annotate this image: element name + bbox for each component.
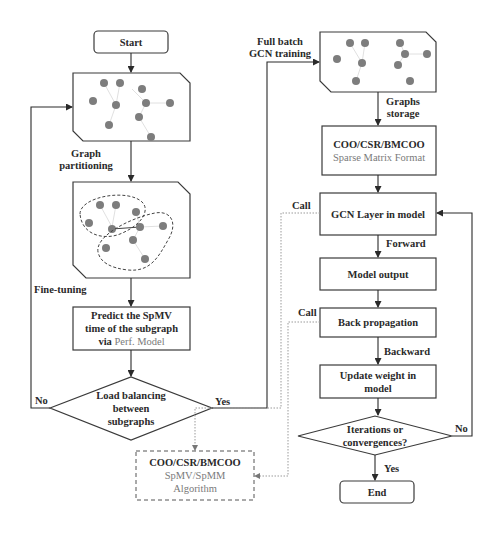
perf-model-highlight: Perf. Model: [114, 336, 164, 347]
graphs-storage-label: Graphs storage: [382, 96, 424, 120]
graph-partitioning-label: Graph partitioning: [58, 148, 114, 172]
graphs-storage-line2: storage: [382, 108, 424, 120]
convergence-line2: convergences?: [343, 436, 408, 449]
yes-label-right: Yes: [384, 463, 399, 475]
call-label-1: Call: [292, 200, 311, 212]
graph-partitioning-line1: Graph: [58, 148, 114, 160]
forward-label: Forward: [386, 238, 426, 250]
predict-text: Predict the SpMV time of the subgraph vi…: [73, 307, 190, 350]
end-label: End: [340, 481, 414, 503]
sparse-format-text: COO/CSR/BMCOO Sparse Matrix Format: [322, 126, 436, 175]
algorithm-title: COO/CSR/BMCOO: [149, 456, 241, 469]
convergence-line1: Iterations or: [347, 423, 403, 436]
convergence-text: Iterations or convergences?: [325, 422, 425, 450]
predict-line1: Predict the SpMV: [91, 309, 172, 322]
model-output-text: Model output: [320, 258, 436, 290]
algorithm-line2: SpMV/SpMM: [165, 469, 226, 482]
graph-box-original: [73, 73, 190, 141]
yes-label-left: Yes: [215, 396, 230, 408]
gcn-layer-text: GCN Layer in model: [320, 193, 436, 235]
start-label: Start: [94, 31, 168, 53]
load-balance-line3: subgraphs: [108, 415, 155, 428]
call-label-2: Call: [298, 307, 317, 319]
sparse-format-subtitle: Sparse Matrix Format: [333, 151, 425, 164]
predict-line3: via Perf. Model: [98, 335, 164, 348]
full-batch-label: Full batch GCN training: [248, 36, 312, 60]
load-balance-line1: Load balancing: [96, 389, 166, 402]
full-batch-line2: GCN training: [248, 48, 312, 60]
no-label-left: No: [35, 395, 48, 407]
fine-tuning-label: Fine-tuning: [34, 284, 87, 296]
no-label-right: No: [455, 423, 468, 435]
graph-partitioning-line2: partitioning: [58, 160, 114, 172]
update-weight-text: Update weight in model: [320, 365, 436, 398]
algorithm-line3: Algorithm: [173, 482, 217, 495]
full-batch-line1: Full batch: [248, 36, 312, 48]
update-weight-line1: Update weight in: [340, 369, 416, 382]
load-balance-text: Load balancing between subgraphs: [80, 388, 182, 428]
sparse-format-title: COO/CSR/BMCOO: [333, 138, 425, 151]
backward-label: Backward: [384, 346, 430, 358]
predict-line2: time of the subgraph: [85, 322, 178, 335]
update-weight-line2: model: [364, 382, 391, 395]
algorithm-text: COO/CSR/BMCOO SpMV/SpMM Algorithm: [136, 451, 254, 500]
load-balance-line2: between: [113, 402, 150, 415]
graph-box-partitioned: [73, 182, 190, 278]
predict-via: via: [98, 336, 111, 347]
graphs-storage-line1: Graphs: [382, 96, 424, 108]
back-propagation-text: Back propagation: [320, 308, 436, 337]
